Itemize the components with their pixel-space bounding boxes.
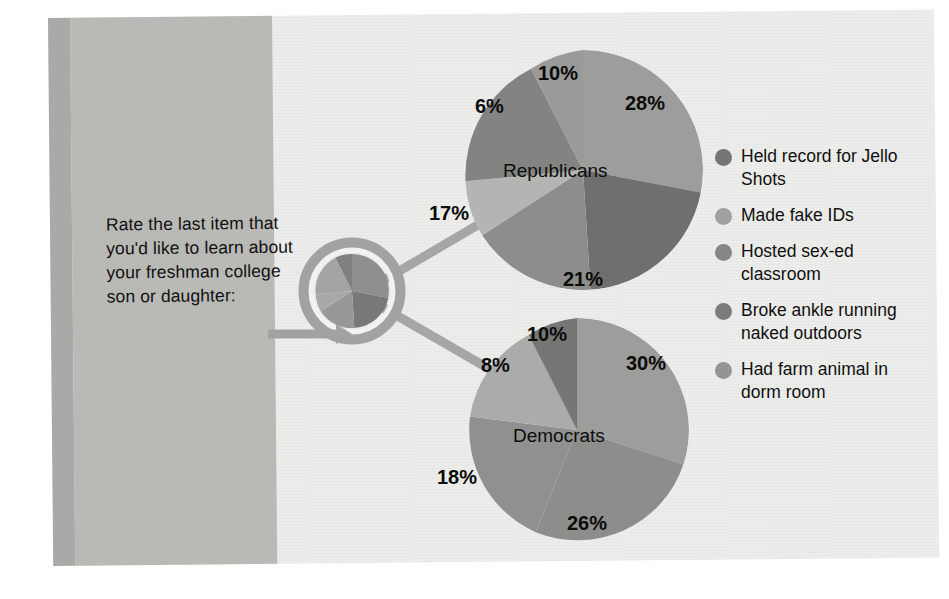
legend-label: Held record for Jello Shots xyxy=(741,145,911,191)
legend-dot-icon xyxy=(715,208,732,225)
legend-dot-icon xyxy=(715,149,732,166)
legend-dot-icon xyxy=(715,362,732,379)
scanned-chart-page: Rate the last item that you'd like to le… xyxy=(0,0,949,599)
democrats-label-18: 18% xyxy=(437,466,477,489)
democrats-title: Democrats xyxy=(513,425,605,447)
republicans-label-17: 17% xyxy=(429,202,469,225)
legend-dot-icon xyxy=(715,303,732,320)
republicans-title: Republicans xyxy=(503,160,608,182)
democrats-label-8: 8% xyxy=(481,354,510,377)
republicans-label-6: 6% xyxy=(475,95,504,118)
legend-label: Had farm animal in dorm room xyxy=(741,358,911,404)
legend-item-sex-ed-classroom[interactable]: Hosted sex-ed classroom xyxy=(715,240,915,286)
legend-label: Broke ankle running naked outdoors xyxy=(741,299,911,345)
democrats-label-30: 30% xyxy=(626,352,666,375)
republicans-label-10: 10% xyxy=(538,62,578,85)
legend-item-fake-ids[interactable]: Made fake IDs xyxy=(715,204,915,227)
republicans-label-28: 28% xyxy=(625,92,665,115)
republicans-label-21: 21% xyxy=(563,268,603,291)
legend-item-broke-ankle[interactable]: Broke ankle running naked outdoors xyxy=(715,299,915,345)
chart-legend: Held record for Jello Shots Made fake ID… xyxy=(715,145,915,417)
legend-label: Hosted sex-ed classroom xyxy=(741,240,911,286)
legend-item-farm-animal[interactable]: Had farm animal in dorm room xyxy=(715,358,915,404)
legend-item-jello-shots[interactable]: Held record for Jello Shots xyxy=(715,145,915,191)
legend-label: Made fake IDs xyxy=(741,204,854,227)
question-prompt-text: Rate the last item that you'd like to le… xyxy=(106,211,297,309)
legend-dot-icon xyxy=(715,244,732,261)
question-panel: Rate the last item that you'd like to le… xyxy=(70,16,277,566)
democrats-label-26: 26% xyxy=(567,512,607,535)
democrats-label-10: 10% xyxy=(527,323,567,346)
